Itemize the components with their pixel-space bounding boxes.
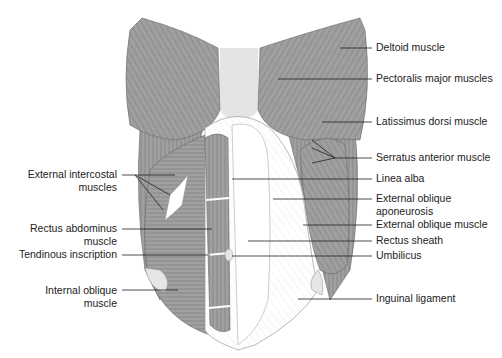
label-tendinous-inscription: Tendinous inscription xyxy=(19,248,117,261)
sternum xyxy=(220,48,258,120)
label-linea-alba: Linea alba xyxy=(376,172,424,185)
label-deltoid-muscle: Deltoid muscle xyxy=(376,41,445,54)
label-inguinal-ligament: Inguinal ligament xyxy=(376,292,455,305)
label-serratus-anterior: Serratus anterior muscle xyxy=(376,151,490,164)
umbilicus xyxy=(225,249,233,261)
left-pectoralis xyxy=(126,18,220,140)
label-rectus-sheath: Rectus sheath xyxy=(376,234,443,247)
label-external-intercostal-line1: External intercostal xyxy=(28,168,117,181)
label-rectus-abdominus-line2: muscle xyxy=(84,235,117,248)
label-latissimus-dorsi: Latissimus dorsi muscle xyxy=(376,115,487,128)
label-external-intercostal-line2: muscles xyxy=(78,181,117,194)
label-external-oblique-muscle: External oblique muscle xyxy=(376,218,487,231)
label-internal-oblique-line2: muscle xyxy=(84,297,117,310)
label-rectus-abdominus-line1: Rectus abdominus xyxy=(30,222,117,235)
linea-alba-sheath xyxy=(232,124,270,345)
label-umbilicus: Umbilicus xyxy=(376,249,422,262)
label-pectoralis-major: Pectoralis major muscles xyxy=(376,72,493,85)
label-internal-oblique-line1: Internal oblique xyxy=(45,284,117,297)
label-external-oblique-aponeurosis-line1: External oblique xyxy=(376,192,451,205)
label-external-oblique-aponeurosis-line2: aponeurosis xyxy=(376,205,433,218)
